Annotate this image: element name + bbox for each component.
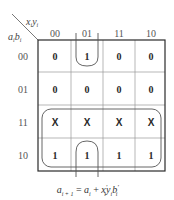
- cell-11-10: X: [135, 118, 167, 128]
- column-label-11: 11: [103, 29, 135, 39]
- column-label-01: 01: [71, 29, 103, 39]
- formula-term-b-prime: ′: [117, 183, 119, 191]
- formula-equals: =: [73, 184, 84, 195]
- column-variable-label: xiyi: [26, 17, 38, 28]
- cell-10-00: 1: [39, 151, 71, 161]
- cell-01-11: 0: [103, 85, 135, 95]
- cell-00-10: 0: [135, 52, 167, 62]
- simplified-expression: ai + 1 = ai + x′iyib′i: [0, 183, 174, 197]
- cell-11-00: X: [39, 118, 71, 128]
- row-label-01: 01: [14, 85, 32, 95]
- cell-11-01: X: [71, 118, 103, 128]
- cell-11-11: X: [103, 118, 135, 128]
- formula-plus: +: [91, 184, 102, 195]
- cell-00-01: 1: [71, 52, 103, 62]
- row-label-11: 11: [14, 118, 32, 128]
- cell-10-11: 1: [103, 151, 135, 161]
- cell-01-01: 0: [71, 85, 103, 95]
- row-label-00: 00: [14, 52, 32, 62]
- cell-00-11: 0: [103, 52, 135, 62]
- column-label-10: 10: [135, 29, 167, 39]
- row-variable-label: aibi: [8, 32, 21, 43]
- cell-00-00: 0: [39, 52, 71, 62]
- cell-01-10: 0: [135, 85, 167, 95]
- cell-01-00: 0: [39, 85, 71, 95]
- cell-10-01: 1: [71, 151, 103, 161]
- column-label-00: 00: [39, 29, 71, 39]
- row-label-10: 10: [14, 151, 32, 161]
- formula-lhs-subscript: i + 1: [62, 191, 74, 197]
- cell-10-10: 1: [135, 151, 167, 161]
